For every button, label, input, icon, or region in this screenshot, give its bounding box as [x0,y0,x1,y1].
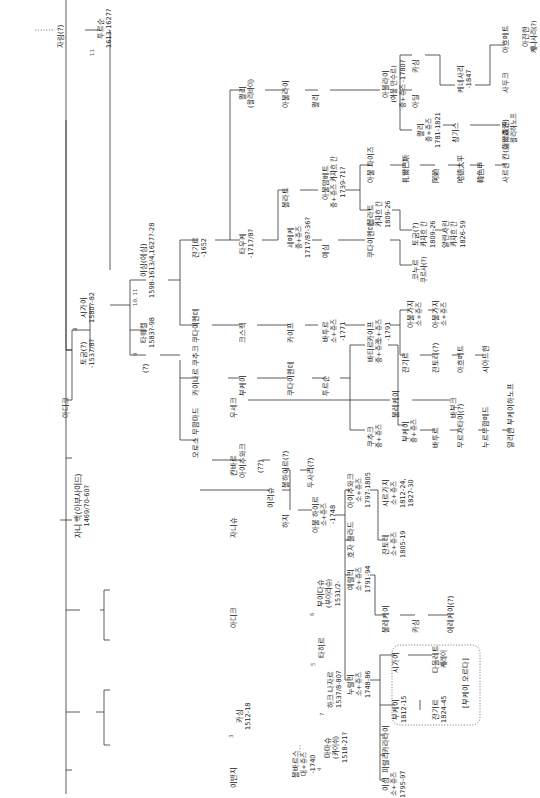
person-dates: 쿠르사(?) [420,256,428,283]
person-node: 누르무함메드 [482,406,490,448]
person-name: 우세크 [230,397,238,418]
person-name: 카심 [412,59,420,73]
person-name: 부케이 [239,375,247,396]
person-dates: 중+쥬즈 [375,424,383,448]
person-node: 아디크 [230,607,238,628]
person-dates: 1809-26 [384,200,392,228]
person-node: 카이나르 쿠추크 [192,345,200,396]
person-dates: 소+쥬즈 [440,300,448,328]
person-name: 阿赖 [432,169,440,183]
person-name: 왈리 [417,112,425,148]
person-dates: 1583?-98 [148,317,156,348]
person-node: 마마슈(카이쉬)1518-21? [324,732,349,763]
person-name: 아디크 [230,607,238,628]
person-node: 자니 백(아부사이드)1469/70-60? [75,473,92,538]
person-node: 쿠추크중+쥬즈 [367,424,384,448]
person-name: 아불라이 [282,80,290,108]
person-node: 잔토레소+쥬즈1805-19 [382,530,407,558]
person-node: 두사리(?) [307,458,315,488]
person-node: 아이추와크 [239,443,247,478]
person-name: 자림(?) [57,25,65,48]
person-node: 자림(?) [57,25,65,48]
person-name: 카라타이 [382,725,390,753]
person-name: 타우케 [239,229,247,258]
person-dates: -1652 [200,237,208,258]
person-node: 코누르쿠르사(?) [412,256,429,283]
person-dates: 소+쥬즈 [355,472,363,508]
person-dates: 소+쥬즈 [355,565,363,593]
person-node: 타우케-1717/8? [239,229,256,258]
person-name: 이심 [382,770,390,798]
person-name: 바티르 [367,339,375,363]
person-node: 에레케이(?) [447,596,455,633]
person-dates: 1717/8?-36? [304,217,312,258]
person-dates: 중+쥬즈 [295,217,303,258]
person-node: 시가이1580?-82 [80,292,97,323]
person-node: 예심 [322,244,330,258]
reign-number: 5 [310,663,316,667]
person-dates: 중+쥬즈 [410,419,418,443]
person-name: [부케이 오르다] [462,658,470,708]
person-name: 아이추와크 [239,443,247,478]
person-name: 쿠다이멘데 [192,308,200,343]
person-dates: 1795-97 [399,770,407,798]
person-dates: 1613-1627? [105,9,113,48]
person-dates: -1847 [465,65,473,93]
person-node: 바투르소+쥬즈-1771 [322,319,347,343]
person-name: 아딜 [412,94,420,108]
person-name: (??) [257,460,265,473]
person-node: 쿠다이멘데 [192,308,200,343]
person-name: 아흐메트 [457,345,465,373]
person-dates: 카자흐 칸 [375,200,383,228]
person-node: [부케이 오르다] [462,658,470,708]
reign-number: 7 [319,713,325,717]
person-dates: 케레이 [440,645,448,673]
person-node: 韓色甲 [477,162,485,183]
person-node: 카심1512-18 [236,702,253,730]
reign-number: 8 [72,328,78,332]
person-node: 扎爾巴斯 [402,155,410,183]
person-dates: 1809-26 [429,220,437,248]
person-name: 케네사리 [457,65,465,93]
person-node: 이심(에심)1598-1613/4,1627?-28 [140,222,157,298]
person-node: 이리슈 [267,487,275,508]
person-node: 볼라트 [282,187,290,208]
person-dates: 1739-71? [339,156,347,208]
person-name: 예랄리 [347,565,355,593]
person-dates: 1537/8-80? [335,671,343,708]
person-node: 아잔한케나사리(?) [522,20,539,53]
person-name: 세메케 [287,217,295,258]
person-node: 카심 [412,619,420,633]
person-node: 시가이 [392,652,400,673]
reign-number: 9 [132,353,138,357]
person-dates: 소+쥬즈 [390,478,398,508]
person-node: 왈리 [312,94,320,108]
person-node: 왈리(왈리바이) [239,79,256,108]
person-name: 투르순 [322,375,330,396]
person-name: 투르순 [97,9,105,48]
person-dates: 소+쥬즈 [390,530,398,558]
person-dates: 1812-15 [400,695,408,723]
person-name: 아흐메트 [502,25,510,53]
person-node: 아딜 [412,94,420,108]
person-dates: (왈리바이) [247,79,255,108]
person-dates: 소+쥬즈 [415,300,423,328]
person-node: 카이프 [287,322,295,343]
person-node: 다울레트케레이 [432,645,449,673]
person-dates: 카자흐 칸 [420,220,428,248]
person-dates: 케나사리(?) [530,20,538,53]
person-node: 阿赖 [432,169,440,183]
person-name: 시가이 [80,292,88,323]
reign-number: 10, 11 [132,289,138,307]
person-node: 아이추와크소+쥬즈1797-1805 [347,472,372,508]
person-dates: 소+쥬즈 [390,770,398,798]
person-dates: -1748 [329,496,337,533]
person-node: 하지 [282,514,290,528]
person-name: 이심(에심) [140,222,148,298]
person-name: 자니슈 [230,517,238,538]
person-name: 부케이 [402,419,410,443]
person-name: 아불 파이즈 [367,146,375,183]
person-name: 볼하이르(?) [282,451,290,488]
